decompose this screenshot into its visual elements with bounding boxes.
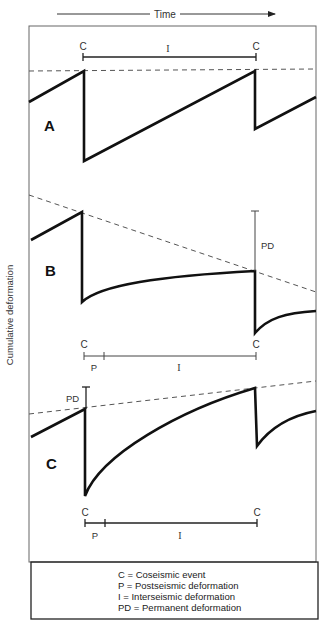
panel-b-timeline (84, 352, 256, 360)
panel-c-pd-label: PD (66, 393, 79, 404)
panel-b-c2-label: C (252, 339, 259, 350)
legend-item-permanent: PD = Permanent deformation (118, 602, 241, 613)
panel-b-post-label: P (91, 362, 97, 373)
panel-c-c2-label: C (253, 507, 260, 518)
panel-b-deformation-curve (31, 212, 316, 333)
panel-b-inter-label: I (177, 362, 180, 373)
panel-c-c1-label: C (81, 507, 88, 518)
panel-a-label: A (44, 117, 55, 134)
legend: C = Coseismic event P = Postseismic defo… (118, 569, 241, 613)
diagram-frame (29, 26, 316, 562)
panel-c-timeline (85, 519, 257, 527)
panel-a-c2-label: C (252, 41, 259, 52)
panel-a-c1-label: C (79, 41, 86, 52)
legend-item-coseismic: C = Coseismic event (118, 569, 241, 580)
panel-a-trend-line (29, 69, 316, 71)
panel-a-interval-label: I (166, 43, 169, 54)
y-axis-label: Cumulative deformation (4, 265, 15, 365)
panel-c-post-label: P (92, 530, 98, 541)
panel-b: PD B C C P I (29, 195, 316, 373)
panel-c: PD C C C P I (29, 381, 316, 541)
panel-c-inter-label: I (178, 530, 181, 541)
panel-a-interval-bracket (83, 53, 256, 61)
seismic-cycle-diagram: Time Cumulative deformation C C I A PD B… (0, 0, 329, 631)
time-axis: Time (57, 9, 275, 20)
panel-c-pd-bracket (82, 387, 90, 409)
legend-item-postseismic: P = Postseismic deformation (118, 580, 241, 591)
time-axis-label: Time (154, 9, 176, 20)
panel-b-pd-label: PD (261, 240, 274, 251)
panel-c-deformation-curve (31, 388, 316, 496)
panel-c-label: C (46, 455, 57, 472)
panel-a: C C I A (29, 41, 316, 161)
legend-item-interseismic: I = Interseismic deformation (118, 591, 241, 602)
panel-b-label: B (45, 262, 56, 279)
panel-a-deformation-curve (29, 71, 316, 161)
panel-b-pd-bracket (251, 211, 259, 271)
panel-b-c1-label: C (80, 339, 87, 350)
